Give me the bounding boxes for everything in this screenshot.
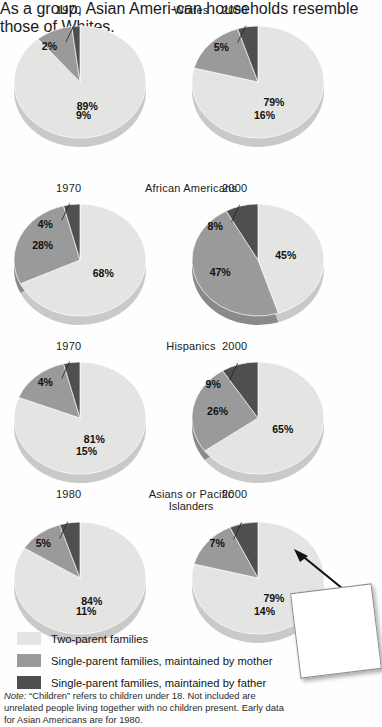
- year-label-right: 2000: [222, 182, 247, 194]
- legend-label-mother: Single-parent families, maintained by mo…: [51, 655, 272, 667]
- pie-row: 68%28%4%45%47%8%: [0, 200, 382, 332]
- pie-group: 1970African Americans200068%28%4%45%47%8…: [0, 182, 382, 332]
- pie-label-father: 7%: [210, 537, 225, 549]
- pie-chart: 45%47%8%: [186, 200, 338, 332]
- pie-label-mother: 14%: [254, 605, 275, 617]
- pie-label-two-parent: 68%: [93, 267, 114, 279]
- figure-root: 1970Whites200089%9%2%79%16%5%1970African…: [0, 0, 382, 727]
- pie-label-mother: 9%: [76, 109, 91, 121]
- legend-swatch-mother: [17, 654, 41, 667]
- pie-row: 81%15%4%65%26%9%: [0, 358, 382, 490]
- figure-note: Note: “Children” refers to children unde…: [4, 690, 294, 726]
- pie-label-two-parent: 65%: [272, 423, 293, 435]
- pie-chart: 81%15%4%: [8, 358, 160, 490]
- pie-svg: [8, 200, 160, 332]
- pie-label-two-parent: 79%: [263, 96, 284, 108]
- pie-svg: [8, 358, 160, 490]
- group-header: 1970African Americans2000: [0, 182, 382, 200]
- group-title: African Americans: [0, 182, 382, 194]
- pie-label-father: 8%: [208, 220, 223, 232]
- pie-label-mother: 15%: [76, 445, 97, 457]
- year-label-right: 2000: [222, 4, 247, 16]
- pie-group: 1970Hispanics200081%15%4%65%26%9%: [0, 340, 382, 490]
- pie-label-two-parent: 79%: [263, 592, 284, 604]
- pie-label-two-parent: 45%: [275, 249, 296, 261]
- group-title: Hispanics: [0, 340, 382, 352]
- year-label-right: 2000: [222, 488, 247, 500]
- note-prefix: Note:: [4, 690, 26, 701]
- pie-label-father: 2%: [42, 40, 57, 52]
- pie-row: 89%9%2%79%16%5%: [0, 22, 382, 154]
- group-header: 1970Hispanics2000: [0, 340, 382, 358]
- pie-label-mother: 47%: [210, 266, 231, 278]
- legend-item-two-parent: Two-parent families: [17, 629, 307, 648]
- pie-label-two-parent: 81%: [84, 433, 105, 445]
- group-title: Whites: [0, 4, 382, 16]
- pie-label-mother: 28%: [32, 239, 53, 251]
- legend-label-two-parent: Two-parent families: [51, 633, 148, 645]
- pie-label-father: 5%: [214, 41, 229, 53]
- pie-group: 1970Whites200089%9%2%79%16%5%: [0, 4, 382, 154]
- group-header: 1980Asians or Pacific2000Islanders: [0, 488, 382, 518]
- pie-label-mother: 26%: [207, 405, 228, 417]
- pie-chart: 68%28%4%: [8, 200, 160, 332]
- pie-label-mother: 11%: [76, 605, 96, 617]
- legend-swatch-two-parent: [17, 632, 41, 645]
- group-header: 1970Whites2000: [0, 4, 382, 22]
- pie-label-mother: 16%: [254, 109, 275, 121]
- year-label-right: 2000: [222, 340, 247, 352]
- pie-chart: 79%16%5%: [186, 22, 338, 154]
- pie-svg: [186, 22, 338, 154]
- pie-chart: 65%26%9%: [186, 358, 338, 490]
- legend: Two-parent families Single-parent famili…: [17, 629, 307, 695]
- pie-label-father: 4%: [38, 218, 53, 230]
- legend-label-father: Single-parent families, maintained by fa…: [51, 677, 266, 689]
- sticky-note: [295, 588, 379, 680]
- pie-label-father: 9%: [206, 378, 221, 390]
- legend-item-mother: Single-parent families, maintained by mo…: [17, 651, 307, 670]
- legend-swatch-father: [17, 676, 41, 689]
- pie-svg: [8, 22, 160, 154]
- pie-chart: 89%9%2%: [8, 22, 160, 154]
- group-title: Asians or Pacific: [0, 488, 382, 500]
- group-title-line2: Islanders: [0, 500, 382, 512]
- pie-label-father: 5%: [36, 537, 51, 549]
- note-body: “Children” refers to children under 18. …: [4, 690, 284, 725]
- pie-label-father: 4%: [38, 376, 53, 388]
